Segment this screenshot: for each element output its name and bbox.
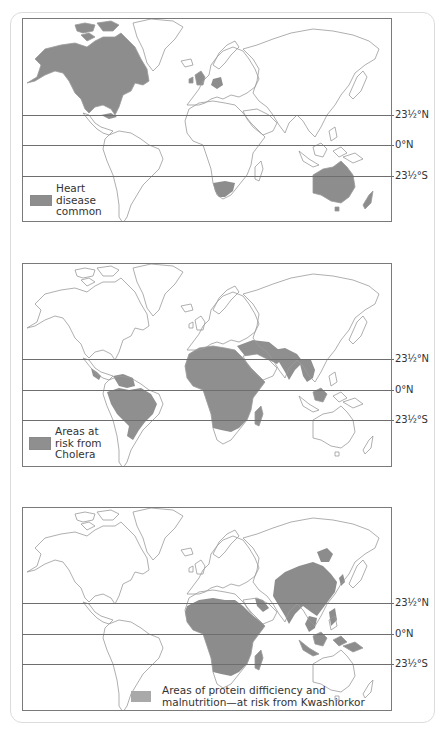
legend-swatch: [131, 691, 151, 702]
legend-label: Areas of protein difficiency and malnutr…: [162, 684, 365, 708]
legend-kwashiorkor: Areas of protein difficiency and malnutr…: [131, 684, 365, 708]
tropic-of-cancer-line: [22, 603, 394, 604]
latitude-label-23n: 23½°N: [395, 598, 429, 608]
highlighted-regions: [185, 548, 363, 676]
map-panel-kwashiorkor: 23½°N 0°N 23½°S Areas of protein diffici…: [0, 0, 444, 734]
world-map-svg: [23, 508, 392, 711]
world-map-kwashiorkor: [22, 507, 392, 711]
latitude-label-23s: 23½°S: [395, 659, 428, 669]
equator-line: [22, 634, 394, 635]
latitude-label-0n: 0°N: [395, 629, 413, 639]
tropic-of-capricorn-line: [22, 664, 394, 665]
